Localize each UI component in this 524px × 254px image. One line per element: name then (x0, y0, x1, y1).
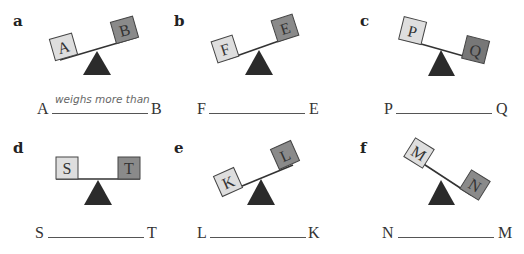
answer-left-letter: P (384, 100, 393, 118)
box-right: N (460, 170, 490, 200)
box-left: K (213, 167, 242, 196)
svg-text:S: S (63, 160, 72, 177)
box-left: M (404, 138, 434, 168)
answer-right-letter: B (151, 100, 162, 118)
exercise-e: e K L L K (170, 127, 344, 254)
box-left: F (211, 35, 239, 63)
answer-blank[interactable] (398, 237, 494, 238)
box-right: B (110, 16, 138, 43)
fulcrum-triangle-icon (428, 50, 455, 76)
svg-text:T: T (124, 160, 134, 177)
box-left: S (56, 157, 78, 179)
box-right: Q (462, 36, 490, 64)
answer-right-letter: K (308, 224, 320, 242)
exercise-f: f M N N M (344, 127, 518, 254)
seesaw-illustration: A B (0, 0, 174, 127)
answer-right-letter: Q (496, 100, 508, 118)
box-right: E (271, 14, 299, 42)
answer-right-letter: E (309, 100, 319, 118)
answer-left-letter: A (37, 100, 49, 118)
answer-left-letter: L (197, 224, 207, 242)
exercise-b: b F E F E (170, 0, 344, 127)
exercise-d: d S T S T (0, 127, 174, 254)
exercise-a: a A B A weighs more than B (0, 0, 174, 127)
answer-left-letter: S (35, 224, 44, 242)
fulcrum-triangle-icon (83, 51, 111, 75)
answer-right-letter: T (147, 224, 157, 242)
answer-blank[interactable] (48, 237, 144, 238)
exercise-c: c P Q P Q (344, 0, 518, 127)
answer-blank[interactable] (210, 237, 306, 238)
fulcrum-triangle-icon (84, 180, 112, 205)
fulcrum-triangle-icon (245, 50, 273, 75)
box-right: T (118, 157, 140, 179)
answer-blank[interactable] (52, 113, 148, 114)
answer-right-letter: M (498, 224, 512, 242)
answer-handwriting: weighs more than (55, 93, 150, 105)
box-right: L (270, 140, 299, 169)
answer-blank[interactable] (209, 113, 305, 114)
box-left: P (399, 17, 427, 45)
answer-left-letter: N (382, 224, 394, 242)
seesaw-illustration: M N (344, 127, 518, 254)
answer-blank[interactable] (396, 113, 492, 114)
answer-left-letter: F (197, 100, 206, 118)
fulcrum-triangle-icon (428, 180, 455, 205)
seesaw-illustration: P Q (344, 0, 518, 127)
